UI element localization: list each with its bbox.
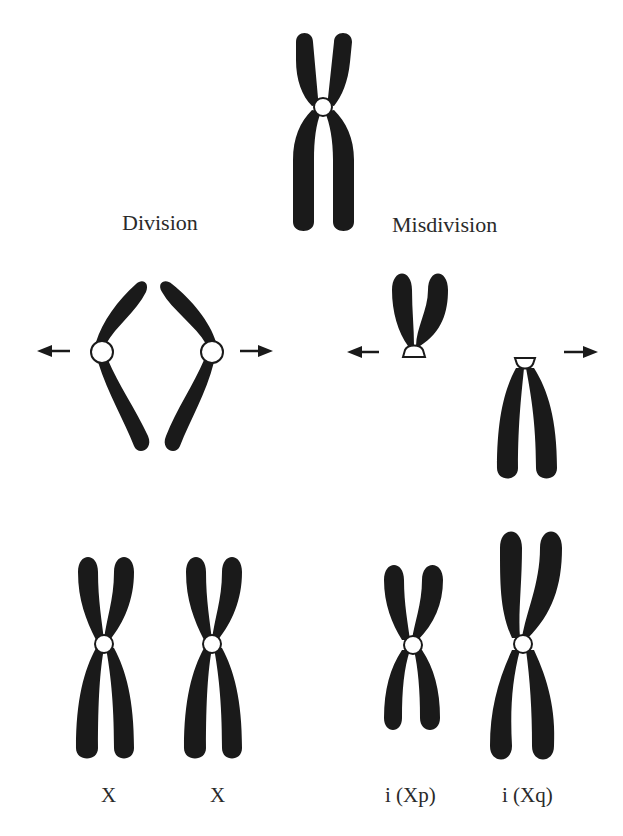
label-i-xp: i (Xp) bbox=[385, 785, 436, 806]
heading-misdivision: Misdivision bbox=[392, 214, 497, 236]
misdivision-fragment-short-arm bbox=[392, 274, 448, 358]
arrow-left-icon bbox=[37, 345, 70, 357]
chromosome-misdivision-diagram bbox=[0, 0, 623, 836]
centromere-icon bbox=[201, 341, 223, 363]
division-chromatid-left bbox=[91, 281, 149, 451]
arrow-right-icon bbox=[240, 345, 273, 357]
heading-division: Division bbox=[122, 212, 198, 234]
x-chromosome-1 bbox=[76, 557, 134, 759]
arrow-left-icon bbox=[347, 346, 379, 358]
label-i-xq: i (Xq) bbox=[502, 785, 553, 806]
half-centromere-icon bbox=[403, 346, 425, 358]
division-chromatid-right bbox=[160, 281, 223, 451]
x-chromosome-2 bbox=[184, 557, 242, 759]
centromere-icon bbox=[203, 635, 221, 653]
centromere-icon bbox=[404, 636, 422, 654]
centromere-icon bbox=[314, 98, 332, 116]
arrow-right-icon bbox=[564, 346, 598, 358]
label-x-2: X bbox=[210, 785, 225, 806]
centromere-icon bbox=[91, 341, 113, 363]
half-centromere-icon bbox=[515, 358, 535, 369]
centromere-icon bbox=[514, 635, 532, 653]
parent-chromosome bbox=[293, 33, 354, 231]
misdivision-fragment-long-arm bbox=[497, 358, 557, 479]
isochromosome-xp bbox=[384, 565, 443, 730]
isochromosome-xq bbox=[490, 532, 562, 760]
label-x-1: X bbox=[101, 785, 116, 806]
centromere-icon bbox=[95, 635, 113, 653]
